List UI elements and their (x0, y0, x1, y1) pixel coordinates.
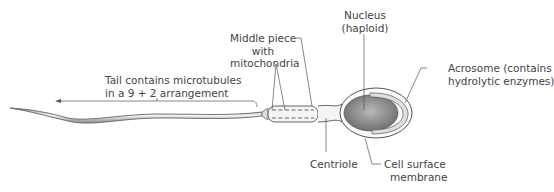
middle-piece-label: Middle piece with mitochondria (230, 32, 296, 70)
acrosome-label: Acrosome (contains hydrolytic enzymes) (448, 62, 554, 87)
tail-label: Tail contains microtubules in a 9 + 2 ar… (105, 74, 241, 99)
middle-piece (268, 106, 318, 122)
nucleus-label: Nucleus (haploid) (340, 9, 390, 34)
cell-membrane-label: Cell surface membrane (384, 158, 447, 183)
nucleus (344, 95, 398, 131)
centriole-label: Centriole (310, 158, 358, 171)
head (340, 88, 412, 138)
tail (10, 108, 268, 123)
